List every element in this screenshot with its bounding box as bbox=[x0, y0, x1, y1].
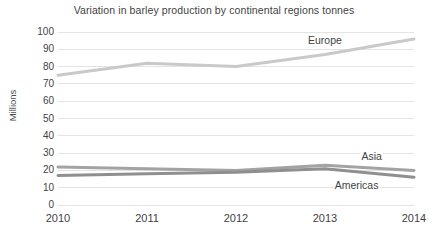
series-label-europe: Europe bbox=[307, 34, 343, 46]
series-label-asia: Asia bbox=[360, 150, 382, 162]
series-label-americas: Americas bbox=[334, 179, 380, 191]
line-chart: Variation in barley production by contin… bbox=[0, 0, 428, 236]
series-line-europe bbox=[58, 39, 414, 75]
plot-area bbox=[0, 0, 428, 236]
series-line-asia bbox=[58, 165, 414, 170]
